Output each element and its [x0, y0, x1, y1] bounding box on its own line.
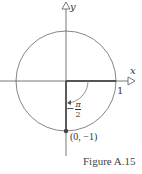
y-axis-label: y: [70, 2, 76, 12]
point-marker: [64, 129, 68, 133]
angle-numerator: π: [75, 100, 80, 110]
x-axis-label: x: [130, 66, 136, 76]
x-arrow-icon: [128, 77, 135, 85]
figure-caption: Figure A.15: [83, 156, 136, 167]
angle-label: −π2: [66, 100, 81, 119]
angle-sign: −: [66, 103, 74, 114]
unit-circle-figure: y x 1 −π2 (0, −1) Figure A.15: [0, 0, 142, 174]
y-arrow-icon: [62, 2, 70, 9]
angle-denominator: 2: [75, 110, 80, 119]
radius-label: 1: [117, 86, 123, 96]
angle-fraction: π2: [75, 100, 80, 119]
point-label: (0, −1): [70, 132, 97, 142]
